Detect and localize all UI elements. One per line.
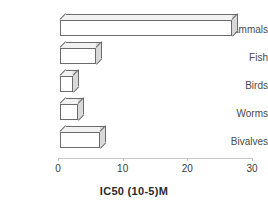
category-label-birds: Birds xyxy=(214,80,268,91)
x-tick-label: 0 xyxy=(43,163,73,174)
bar-edge-side-right xyxy=(101,42,102,58)
bar-front-face xyxy=(60,104,78,120)
bar-birds xyxy=(60,70,79,92)
bar-edge-top-back xyxy=(66,42,102,43)
bar-front-face xyxy=(60,48,96,64)
bar-edge-side-right xyxy=(83,98,84,114)
x-tick-mark xyxy=(123,158,124,161)
bar-edge-top-back xyxy=(66,14,238,15)
x-tick-label: 30 xyxy=(237,163,267,174)
bar-edge-top-back xyxy=(66,126,106,127)
x-tick-mark xyxy=(252,158,253,161)
x-tick-mark xyxy=(58,158,59,161)
x-axis-line xyxy=(58,158,252,159)
bar-front-face xyxy=(60,76,73,92)
category-label-bivalves: Bivalves xyxy=(214,136,268,147)
x-axis-title: IC50 (10-5)M xyxy=(0,185,268,197)
bar-fish xyxy=(60,42,102,64)
bar-bivalves xyxy=(60,126,106,148)
category-label-fish: Fish xyxy=(214,52,268,63)
x-tick-label: 20 xyxy=(172,163,202,174)
bar-front-face xyxy=(60,132,100,148)
bar-edge-side-right xyxy=(105,126,106,142)
bar-front-face xyxy=(60,20,232,36)
x-tick-label: 10 xyxy=(108,163,138,174)
bar-edge-side-right xyxy=(237,14,238,30)
bar-worms xyxy=(60,98,84,120)
bar-edge-side-right xyxy=(78,70,79,86)
category-label-worms: Worms xyxy=(214,108,268,119)
bar-chart-figure: Mammals Fish Birds Worms Bivalves 010203… xyxy=(0,0,268,207)
bar-mammals xyxy=(60,14,238,36)
x-tick-mark xyxy=(187,158,188,161)
